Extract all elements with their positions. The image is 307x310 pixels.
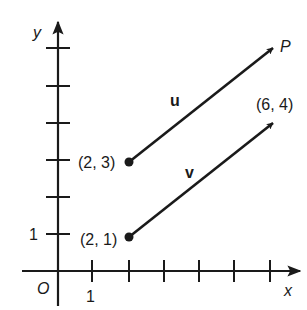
- point-v-start: [125, 233, 134, 242]
- x-tick-label-1: 1: [86, 288, 95, 305]
- vector-u-label: u: [170, 92, 180, 109]
- vector-v-label: v: [185, 164, 194, 181]
- origin-label: O: [37, 280, 49, 297]
- point-p-label: P: [280, 38, 291, 55]
- axes: x y O 1 1: [22, 22, 300, 306]
- point-u-start: [125, 158, 134, 167]
- vector-v: v (2, 1) (6, 4): [80, 96, 293, 248]
- y-axis-label: y: [32, 24, 42, 41]
- x-axis-label: x: [283, 282, 293, 299]
- point-v-start-label: (2, 1): [80, 231, 117, 248]
- point-v-end-label: (6, 4): [256, 96, 293, 113]
- vector-diagram: x y O 1 1 u (2, 3) P v (2, 1) (6, 4): [0, 0, 307, 310]
- point-u-start-label: (2, 3): [78, 154, 115, 171]
- y-tick-label-1: 1: [29, 226, 38, 243]
